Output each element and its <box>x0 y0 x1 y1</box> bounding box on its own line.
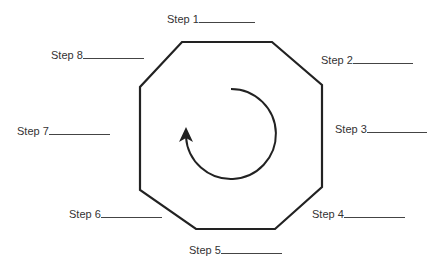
step-text: Step 1 <box>167 13 199 25</box>
step-8-blank[interactable] <box>83 48 144 59</box>
step-7-label: Step 7 <box>17 124 110 137</box>
step-1-label: Step 1 <box>167 12 255 25</box>
step-8-label: Step 8 <box>51 48 144 61</box>
step-text: Step 5 <box>189 244 221 256</box>
step-6-label: Step 6 <box>69 207 162 220</box>
step-2-label: Step 2 <box>321 53 413 66</box>
step-3-blank[interactable] <box>367 122 427 133</box>
step-3-label: Step 3 <box>335 122 427 135</box>
step-5-blank[interactable] <box>221 243 282 254</box>
step-text: Step 2 <box>321 54 353 66</box>
step-1-blank[interactable] <box>199 12 255 23</box>
cycle-diagram: Step 1 Step 2 Step 3 Step 4 Step 5 Step … <box>0 0 434 270</box>
step-4-blank[interactable] <box>344 207 405 218</box>
step-text: Step 8 <box>51 49 83 61</box>
step-text: Step 6 <box>69 208 101 220</box>
step-4-label: Step 4 <box>312 207 405 220</box>
step-2-blank[interactable] <box>353 53 413 64</box>
step-text: Step 7 <box>17 125 49 137</box>
step-text: Step 3 <box>335 123 367 135</box>
step-text: Step 4 <box>312 208 344 220</box>
step-5-label: Step 5 <box>189 243 282 256</box>
step-7-blank[interactable] <box>49 124 110 135</box>
octagon-shape <box>140 42 322 229</box>
circular-arrow-icon <box>186 89 276 179</box>
step-6-blank[interactable] <box>101 207 162 218</box>
